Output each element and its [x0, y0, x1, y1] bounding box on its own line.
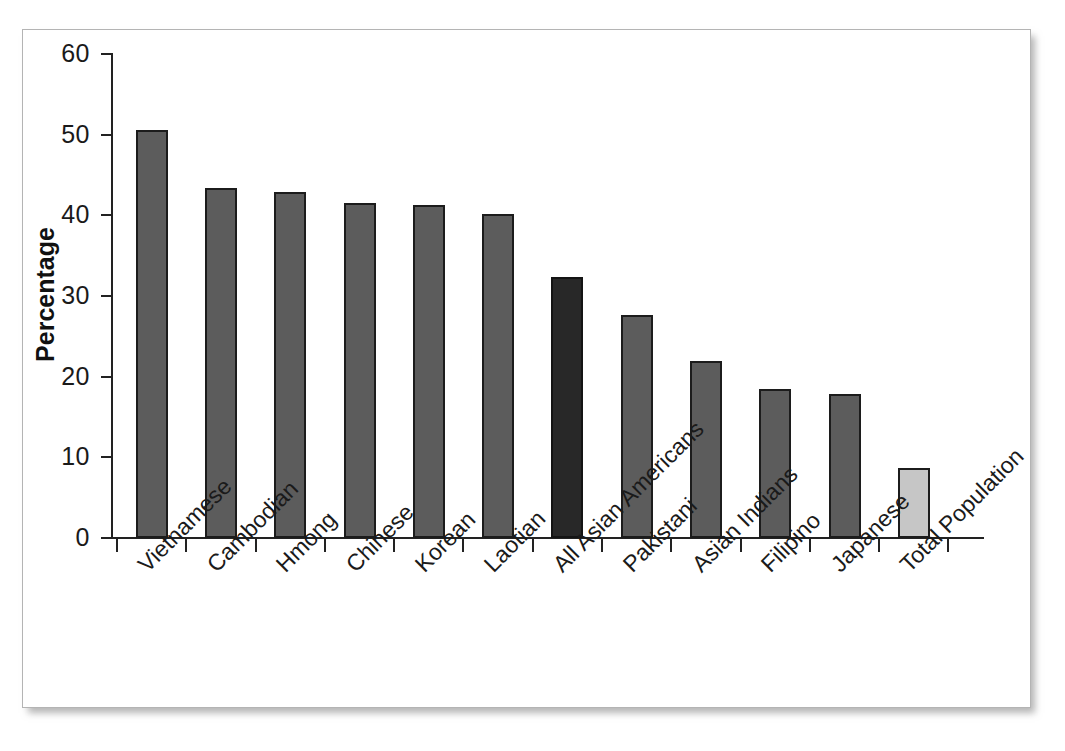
- y-tick-label: 60: [20, 41, 90, 66]
- bar-vietnamese: [136, 130, 168, 538]
- bar-all-asian-americans: [551, 277, 583, 538]
- bar-chinese: [344, 203, 376, 538]
- y-tick-label: 40: [20, 202, 90, 227]
- y-tick-mark: [101, 214, 112, 216]
- y-tick-mark: [101, 134, 112, 136]
- y-tick-mark: [101, 376, 112, 378]
- bar-japanese: [829, 394, 861, 538]
- y-tick-label: 10: [20, 444, 90, 469]
- y-tick-label: 20: [20, 364, 90, 389]
- bar-chart-plot-area: Percentage 0102030405060 VietnameseCambo…: [23, 30, 1032, 709]
- y-tick-mark: [101, 537, 112, 539]
- y-tick-label: 30: [20, 283, 90, 308]
- y-tick-label: 50: [20, 122, 90, 147]
- bar-korean: [413, 205, 445, 538]
- y-tick-mark: [101, 456, 112, 458]
- y-tick-mark: [101, 53, 112, 55]
- y-tick-mark: [101, 295, 112, 297]
- y-tick-label: 0: [20, 525, 90, 550]
- x-tick-mark: [116, 539, 118, 552]
- figure-card: Percentage 0102030405060 VietnameseCambo…: [22, 29, 1031, 708]
- bar-laotian: [482, 214, 514, 538]
- screenshot-page: Percentage 0102030405060 VietnameseCambo…: [0, 0, 1065, 751]
